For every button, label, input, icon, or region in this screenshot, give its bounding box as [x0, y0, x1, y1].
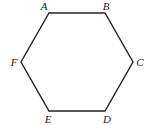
- vertex-label-d: D: [102, 113, 111, 125]
- vertex-label-e: E: [44, 113, 52, 125]
- vertex-label-c: C: [136, 56, 144, 68]
- vertex-label-f: F: [10, 56, 18, 68]
- vertex-label-b: B: [103, 0, 110, 12]
- vertex-label-a: A: [40, 0, 48, 12]
- hexagon-outline: [21, 13, 133, 111]
- hexagon-diagram: A B C D E F: [0, 0, 146, 125]
